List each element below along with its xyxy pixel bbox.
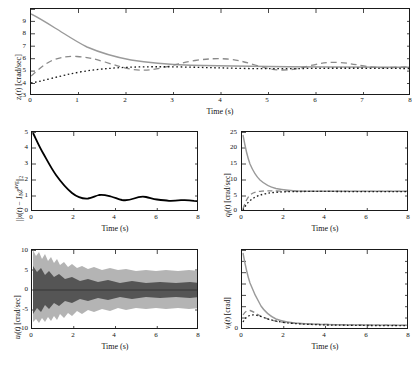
series-q1 <box>243 135 408 191</box>
series-q3 <box>243 191 408 210</box>
panel-error-ytick-2: 2 <box>14 175 28 183</box>
panel-u-xtick-6: 6 <box>149 331 163 339</box>
panel-q-ytick-15: 15 <box>221 159 237 167</box>
panel-z-ytick-7: 7 <box>12 42 26 50</box>
panel-nu-xlabel: Time (s) <box>290 342 360 351</box>
panel-q-ytick-25: 25 <box>221 128 237 136</box>
panel-u-ytick-5: 5 <box>8 266 28 274</box>
panel-z-xtick-2: 2 <box>118 96 132 104</box>
series-z1 <box>31 14 410 67</box>
panel-nu-xtick-8: 8 <box>401 331 415 339</box>
panel-z-ytick-5: 5 <box>12 66 26 74</box>
panel-q-xtick-4: 4 <box>317 213 331 221</box>
panel-error-xtick-4: 4 <box>107 213 121 221</box>
panel-q-ytick-20: 20 <box>221 143 237 151</box>
panel-z-xlabel: Time (s) <box>185 107 255 116</box>
panel-z-xtick-6: 6 <box>308 96 322 104</box>
panel-nu: νi(t) [crad] <box>210 243 420 370</box>
panel-q-svg <box>242 132 408 211</box>
panel-z-xtick-1: 1 <box>70 96 84 104</box>
panel-q-xtick-6: 6 <box>359 213 373 221</box>
panel-q-ytick-5: 5 <box>221 191 237 199</box>
panel-error-svg <box>32 132 198 211</box>
panel-u-plot <box>31 249 198 329</box>
panel-z-svg <box>31 9 410 95</box>
panel-u-ylabel: ui(t) [crad/sec] <box>13 295 22 339</box>
series-q2 <box>243 191 408 209</box>
panel-z-ytick-4: 4 <box>12 79 26 87</box>
panel-q-xtick-2: 2 <box>276 213 290 221</box>
panel-nu-plot <box>241 249 408 329</box>
panel-z-xtick-8: 8 <box>403 96 417 104</box>
figure-canvas: zi(t) [crad/sec] <box>0 0 420 370</box>
series-error-norm <box>33 133 198 201</box>
panel-error-plot <box>31 131 198 211</box>
panel-u-xtick-8: 8 <box>191 331 205 339</box>
panel-u-ytick--5: -5 <box>8 305 28 313</box>
panel-q-xtick-8: 8 <box>401 213 415 221</box>
panel-z-xtick-7: 7 <box>355 96 369 104</box>
panel-z-ytick-6: 6 <box>12 54 26 62</box>
panel-q-xtick-0: 0 <box>234 213 248 221</box>
panel-nu-svg <box>242 250 408 329</box>
panel-z-xtick-3: 3 <box>165 96 179 104</box>
panel-z-xtick-4: 4 <box>213 96 227 104</box>
panel-u-xtick-0: 0 <box>24 331 38 339</box>
panel-error-xtick-8: 8 <box>191 213 205 221</box>
panel-u-xtick-2: 2 <box>66 331 80 339</box>
panel-u-xtick-4: 4 <box>107 331 121 339</box>
panel-q-ytick-10: 10 <box>221 175 237 183</box>
panel-z-ytick-9: 9 <box>12 17 26 25</box>
panel-z-xtick-0: 0 <box>23 96 37 104</box>
panel-z-xtick-5: 5 <box>260 96 274 104</box>
panel-z-plot <box>30 8 410 95</box>
panel-error-ytick-4: 4 <box>14 143 28 151</box>
panel-u-ytick-0: 0 <box>8 285 28 293</box>
panel-u: ui(t) [crad/sec] <box>0 243 210 370</box>
panel-u-xlabel: Time (s) <box>80 342 150 351</box>
panel-z-ytick-8: 8 <box>12 29 26 37</box>
panel-error: ||x(t) − 1Nz̄avg||2 5 <box>0 125 210 240</box>
panel-nu-xtick-2: 2 <box>276 331 290 339</box>
panel-nu-xtick-4: 4 <box>317 331 331 339</box>
panel-error-ytick-5: 5 <box>14 128 28 136</box>
panel-q-plot <box>241 131 408 211</box>
series-nu1 <box>243 253 408 325</box>
panel-error-xtick-2: 2 <box>66 213 80 221</box>
panel-nu-xtick-6: 6 <box>359 331 373 339</box>
panel-error-ytick-1: 1 <box>14 191 28 199</box>
panel-z: zi(t) [crad/sec] <box>0 0 420 122</box>
series-z3 <box>31 67 410 83</box>
panel-error-xtick-0: 0 <box>24 213 38 221</box>
panel-u-svg <box>32 250 198 329</box>
panel-error-xlabel: Time (s) <box>80 224 150 233</box>
panel-q: qi(t) [crad/sec] <box>210 125 420 240</box>
panel-nu-xtick-0: 0 <box>234 331 248 339</box>
panel-q-xlabel: Time (s) <box>290 224 360 233</box>
panel-error-xtick-6: 6 <box>149 213 163 221</box>
panel-u-ytick-10: 10 <box>8 246 28 254</box>
panel-error-ytick-3: 3 <box>14 159 28 167</box>
